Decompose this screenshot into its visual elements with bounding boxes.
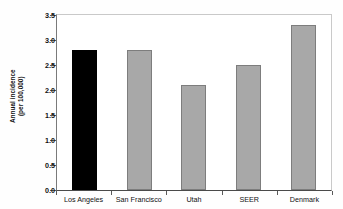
y-tick-label: 3.5 bbox=[29, 12, 55, 19]
plot-area bbox=[56, 14, 332, 191]
x-axis-labels: Los AngelesSan FranciscoUtahSEERDenmark bbox=[56, 195, 332, 204]
y-tick-label: 0.0 bbox=[29, 187, 55, 194]
x-axis-label-utah: Utah bbox=[166, 195, 221, 204]
bar-slot bbox=[167, 15, 222, 190]
bar-series bbox=[57, 15, 331, 190]
bar-slot bbox=[221, 15, 276, 190]
x-axis-label-denmark: Denmark bbox=[277, 195, 332, 204]
x-axis-label-san-francisco: San Francisco bbox=[111, 195, 166, 204]
bar-denmark[interactable] bbox=[291, 25, 316, 190]
bar-san-francisco[interactable] bbox=[127, 50, 152, 190]
bar-chart-figure: Annual incidence (per 100,000) 0.00.51.0… bbox=[0, 0, 343, 209]
bar-slot bbox=[112, 15, 167, 190]
bar-slot bbox=[276, 15, 331, 190]
x-axis-label-seer: SEER bbox=[222, 195, 277, 204]
y-tick-label: 0.5 bbox=[29, 162, 55, 169]
y-tick-label: 3.0 bbox=[29, 37, 55, 44]
bar-utah[interactable] bbox=[181, 85, 206, 190]
y-axis-title-line-2: (per 100,000) bbox=[17, 69, 25, 123]
bar-los-angeles[interactable] bbox=[72, 50, 97, 190]
x-axis-label-los-angeles: Los Angeles bbox=[56, 195, 111, 204]
bar-slot bbox=[57, 15, 112, 190]
y-tick-label: 2.5 bbox=[29, 62, 55, 69]
y-axis-title-text: Annual incidence (per 100,000) bbox=[9, 69, 25, 123]
x-tick-mark bbox=[332, 191, 333, 195]
bar-seer[interactable] bbox=[236, 65, 261, 190]
y-tick-label: 2.0 bbox=[29, 87, 55, 94]
y-tick-label: 1.5 bbox=[29, 112, 55, 119]
y-axis-title-line-1: Annual incidence bbox=[9, 69, 16, 123]
y-tick-label: 1.0 bbox=[29, 137, 55, 144]
